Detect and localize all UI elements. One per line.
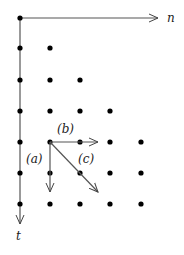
arrow-a-label: (a): [26, 152, 43, 166]
lattice-points: [17, 15, 143, 206]
arrow-c-diagonal: [50, 142, 98, 192]
arrow-b-label: (b): [57, 122, 74, 136]
lattice-diagram: n t (a) (b) (c): [0, 0, 184, 255]
n-axis-label: n: [167, 11, 175, 25]
arrow-c-label: (c): [78, 152, 94, 166]
t-axis-label: t: [16, 229, 21, 243]
